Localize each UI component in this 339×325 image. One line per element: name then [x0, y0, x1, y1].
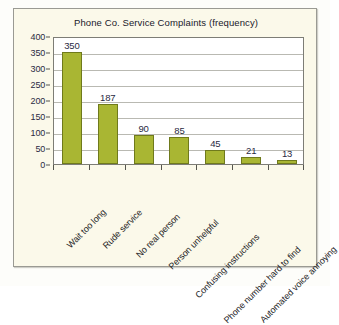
- x-axis-labels: Wait too longRude serviceNo real personP…: [53, 171, 304, 266]
- y-tick-mark: [46, 85, 50, 86]
- bar[interactable]: [277, 160, 297, 164]
- y-tick-mark: [46, 133, 50, 134]
- x-tick-mark: [303, 165, 304, 170]
- bar-value-label: 13: [282, 148, 292, 159]
- chart-title: Phone Co. Service Complaints (frequency): [14, 17, 318, 28]
- bar-slot: 85: [162, 38, 198, 164]
- y-tick-label: 250: [31, 80, 45, 90]
- bar[interactable]: [169, 137, 189, 164]
- y-tick-label: 400: [31, 32, 45, 42]
- x-tick-mark: [125, 165, 126, 170]
- bar-value-label: 187: [100, 92, 116, 103]
- bar[interactable]: [205, 150, 225, 164]
- bar-value-label: 21: [246, 145, 256, 156]
- x-tick-mark: [232, 165, 233, 170]
- y-tick-mark: [46, 149, 50, 150]
- bar-slot: 13: [269, 38, 305, 164]
- y-tick-mark: [46, 101, 50, 102]
- x-tick-mark: [89, 165, 90, 170]
- bar-value-label: 90: [138, 123, 148, 134]
- x-axis-category-label: Automated voice annoying: [258, 244, 338, 324]
- bar-slot: 187: [90, 38, 126, 164]
- y-tick-label: 350: [31, 48, 45, 58]
- bar-value-label: 350: [64, 40, 80, 51]
- bar-slot: 350: [54, 38, 90, 164]
- x-tick-mark: [268, 165, 269, 170]
- y-tick-label: 0: [40, 160, 45, 170]
- y-tick-mark: [46, 165, 50, 166]
- bar-slot: 90: [126, 38, 162, 164]
- bar-slot: 21: [233, 38, 269, 164]
- bar[interactable]: [98, 104, 118, 164]
- bar-value-label: 45: [210, 138, 220, 149]
- bar[interactable]: [62, 52, 82, 164]
- bar-slot: 45: [197, 38, 233, 164]
- bar-value-label: 85: [174, 125, 184, 136]
- y-tick-mark: [46, 117, 50, 118]
- y-tick-label: 150: [31, 112, 45, 122]
- bars-layer: 3501879085452113: [54, 38, 303, 164]
- y-tick-label: 50: [35, 144, 45, 154]
- plot-area: 3501879085452113: [53, 37, 304, 165]
- y-axis: 400350300250200150100500: [14, 37, 50, 165]
- bar[interactable]: [241, 157, 261, 164]
- y-tick-label: 100: [31, 128, 45, 138]
- y-tick-mark: [46, 37, 50, 38]
- x-axis-category-label: No real person: [134, 212, 182, 260]
- chart-panel: Phone Co. Service Complaints (frequency)…: [13, 8, 317, 267]
- y-tick-label: 300: [31, 64, 45, 74]
- y-tick-label: 200: [31, 96, 45, 106]
- x-tick-mark: [161, 165, 162, 170]
- bar[interactable]: [134, 135, 154, 164]
- y-tick-mark: [46, 53, 50, 54]
- x-tick-mark: [53, 165, 54, 170]
- x-tick-mark: [196, 165, 197, 170]
- y-tick-mark: [46, 69, 50, 70]
